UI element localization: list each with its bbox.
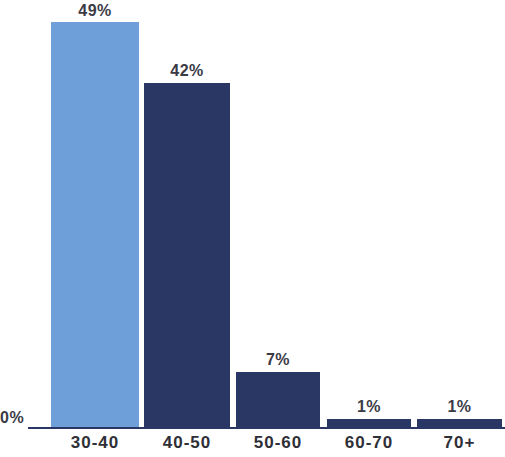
- category-label-30-40: 30-40: [51, 433, 139, 453]
- value-label-40-50: 42%: [144, 62, 230, 80]
- category-label-70-plus: 70+: [417, 433, 502, 453]
- bar-30-40: [51, 22, 139, 427]
- x-axis-line: [28, 427, 505, 429]
- bar-chart: 49% 42% 7% 1% 1% 0% 30-40 40-50 50-60 60…: [0, 0, 505, 457]
- plot-area: 49% 42% 7% 1% 1% 0% 30-40 40-50 50-60 60…: [0, 0, 505, 457]
- value-label-50-60: 7%: [236, 351, 320, 369]
- axis-zero-label: 0%: [0, 409, 26, 427]
- bar-40-50: [144, 83, 230, 427]
- value-label-30-40: 49%: [51, 2, 139, 20]
- bar-50-60: [236, 372, 320, 427]
- value-label-70-plus: 1%: [417, 398, 502, 416]
- category-label-40-50: 40-50: [144, 433, 230, 453]
- value-label-60-70: 1%: [327, 398, 411, 416]
- bar-70-plus: [417, 419, 502, 427]
- category-label-60-70: 60-70: [327, 433, 411, 453]
- bar-60-70: [327, 419, 411, 427]
- category-label-50-60: 50-60: [236, 433, 320, 453]
